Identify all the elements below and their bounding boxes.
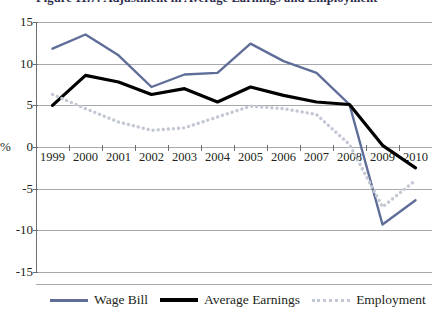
- legend-swatch-icon: [312, 299, 350, 302]
- y-axis-tick-mark: [33, 272, 38, 273]
- gridline: [36, 272, 432, 273]
- y-axis-tick-label: -5: [3, 181, 33, 197]
- figure-container: Figure 11.7: Adjustment in Average Earni…: [0, 0, 438, 315]
- series-line-average-earnings: [53, 75, 416, 168]
- legend-label: Average Earnings: [204, 292, 300, 308]
- y-axis-labels: 151050%-5-10-15: [0, 22, 33, 272]
- series-layer: [36, 22, 432, 272]
- y-axis-tick-label: 5: [3, 97, 33, 113]
- legend-label: Wage Bill: [94, 292, 148, 308]
- legend-divider: [36, 284, 432, 285]
- y-axis-tick-label: 15: [3, 14, 33, 30]
- legend-swatch-icon: [50, 299, 88, 302]
- y-axis-unit-label: %: [0, 139, 16, 155]
- series-line-wage-bill: [53, 35, 416, 225]
- figure-title: Figure 11.7: Adjustment in Average Earni…: [36, 0, 436, 7]
- chart-legend: Wage BillAverage EarningsEmployment: [36, 288, 432, 312]
- y-axis-tick-label: -10: [3, 222, 33, 238]
- legend-item-wage-bill[interactable]: Wage Bill: [50, 292, 148, 308]
- legend-label: Employment: [356, 292, 426, 308]
- legend-swatch-icon: [160, 298, 198, 302]
- y-axis-tick-label: 10: [3, 56, 33, 72]
- y-axis-tick-label: -15: [3, 264, 33, 280]
- legend-item-average-earnings[interactable]: Average Earnings: [160, 292, 300, 308]
- legend-item-employment[interactable]: Employment: [312, 292, 426, 308]
